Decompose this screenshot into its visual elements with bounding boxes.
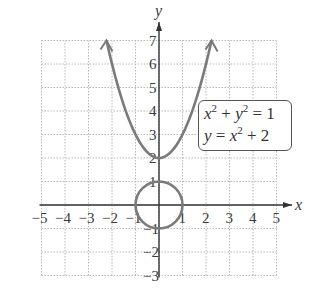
- rhs: + 2: [243, 126, 270, 145]
- legend-circle-equation: x2 + y2 = 1: [204, 103, 291, 125]
- var-y: y: [204, 126, 212, 145]
- y-tick-label: 6: [149, 56, 157, 72]
- y-tick-label: 7: [149, 33, 157, 49]
- x-tick-label: 2: [202, 210, 210, 226]
- y-tick-label: −2: [143, 244, 159, 260]
- var-x: x: [204, 104, 212, 123]
- equation-legend: x2 + y2 = 1 y = x2 + 2: [198, 100, 292, 151]
- x-tick-label: 5: [273, 210, 281, 226]
- x-tick-label: −2: [102, 210, 118, 226]
- y-tick-label: 4: [149, 103, 157, 119]
- x-axis-arrow-icon: [283, 202, 292, 208]
- x-tick-label: −5: [32, 210, 48, 226]
- y-axis-label: y: [153, 2, 163, 20]
- x-tick-label: −3: [79, 210, 95, 226]
- operator: =: [212, 126, 230, 145]
- y-tick-label: 3: [149, 127, 157, 143]
- x-tick-label: −4: [55, 210, 71, 226]
- x-tick-label: 3: [226, 210, 234, 226]
- var-y: y: [235, 104, 243, 123]
- operator: +: [217, 104, 235, 123]
- legend-parabola-equation: y = x2 + 2: [204, 125, 291, 147]
- graph-figure: xy −5−4−3−2−1123457654321−1−2−3 x2 + y2 …: [0, 0, 309, 299]
- x-axis-label: x: [294, 196, 302, 213]
- y-tick-label: −3: [143, 268, 159, 284]
- rhs: = 1: [248, 104, 275, 123]
- y-tick-label: 5: [149, 80, 157, 96]
- y-axis-arrow-icon: [156, 22, 162, 31]
- x-tick-label: 4: [249, 210, 257, 226]
